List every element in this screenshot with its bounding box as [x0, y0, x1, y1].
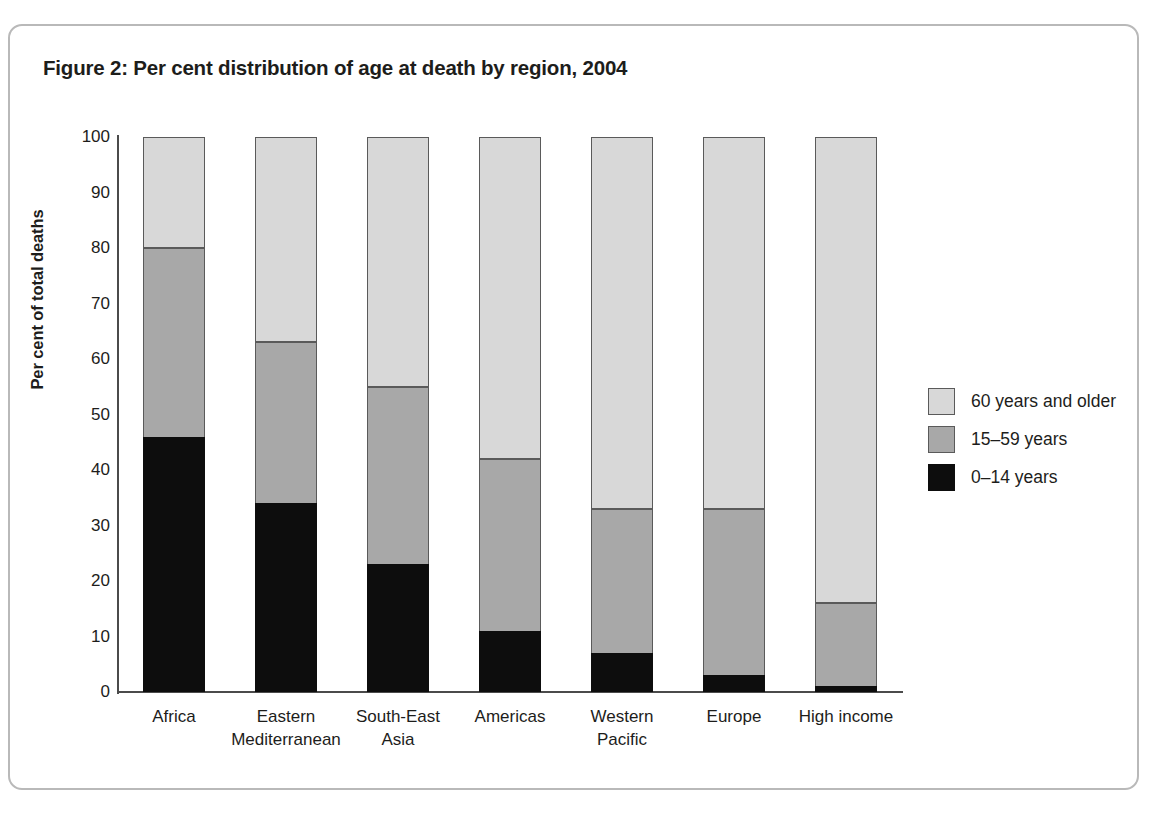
x-axis-tick-label: South-EastAsia — [342, 706, 454, 752]
legend-item: 15–59 years — [928, 420, 1128, 458]
y-axis-tick-70: 70 — [91, 294, 110, 314]
x-axis-tick-line: High income — [790, 706, 902, 729]
y-axis-tick-90: 90 — [91, 183, 110, 203]
bar-column — [255, 137, 317, 692]
x-axis-tick-label: Africa — [118, 706, 230, 729]
x-axis-tick-label: Europe — [678, 706, 790, 729]
bar-segment-15-59 — [255, 342, 317, 503]
bar-column — [367, 137, 429, 692]
legend-item: 60 years and older — [928, 382, 1128, 420]
x-axis-tick-label: WesternPacific — [566, 706, 678, 752]
x-axis-tick-line: Pacific — [566, 729, 678, 752]
bar-segment-15-59 — [479, 459, 541, 631]
bar-segment-15-59 — [143, 248, 205, 437]
bar-segment-60-and-older — [367, 137, 429, 387]
x-axis-tick-line: Africa — [118, 706, 230, 729]
bar-segment-60-and-older — [815, 137, 877, 603]
x-axis-tick-label: EasternMediterranean — [230, 706, 342, 752]
bar-segment-15-59 — [367, 387, 429, 565]
y-axis-tick-0: 0 — [101, 682, 110, 702]
bar-segment-15-59 — [703, 509, 765, 676]
bar-column — [815, 137, 877, 692]
x-axis-tick-line: Europe — [678, 706, 790, 729]
figure-title: Figure 2: Per cent distribution of age a… — [43, 56, 627, 80]
bar-segment-60-and-older — [143, 137, 205, 248]
bar-segment-0-14 — [479, 631, 541, 692]
bar-segment-15-59 — [815, 603, 877, 686]
legend-label: 15–59 years — [971, 429, 1067, 450]
x-axis-tick-line: Asia — [342, 729, 454, 752]
y-axis-tick-30: 30 — [91, 516, 110, 536]
y-axis-tick-labels: 0102030405060708090100 — [58, 0, 110, 815]
bar-segment-0-14 — [255, 503, 317, 692]
legend-swatch-icon — [928, 426, 955, 453]
x-axis-tick-line: Eastern — [230, 706, 342, 729]
bar-segment-60-and-older — [479, 137, 541, 459]
bar-segment-0-14 — [815, 686, 877, 692]
y-axis-label: Per cent of total deaths — [28, 170, 47, 430]
x-axis-tick-label: Americas — [454, 706, 566, 729]
x-axis-tick-line: South-East — [342, 706, 454, 729]
bar-column — [143, 137, 205, 692]
bar-column — [591, 137, 653, 692]
bar-segment-60-and-older — [703, 137, 765, 509]
x-axis-tick-line: Americas — [454, 706, 566, 729]
screenshot-root: Figure 2: Per cent distribution of age a… — [0, 0, 1153, 815]
legend-swatch-icon — [928, 464, 955, 491]
bar-segment-15-59 — [591, 509, 653, 653]
x-axis-tick-label: High income — [790, 706, 902, 729]
x-axis-tick-line: Western — [566, 706, 678, 729]
y-axis-tick-100: 100 — [82, 127, 110, 147]
legend-label: 60 years and older — [971, 391, 1116, 412]
y-axis-tick-40: 40 — [91, 460, 110, 480]
legend-item: 0–14 years — [928, 458, 1128, 496]
bar-segment-60-and-older — [591, 137, 653, 509]
legend-swatch-icon — [928, 388, 955, 415]
y-axis-tick-60: 60 — [91, 349, 110, 369]
legend-label: 0–14 years — [971, 467, 1058, 488]
y-axis-tick-80: 80 — [91, 238, 110, 258]
bar-segment-60-and-older — [255, 137, 317, 342]
y-axis-tick-50: 50 — [91, 405, 110, 425]
bar-column — [703, 137, 765, 692]
y-axis-tick-20: 20 — [91, 571, 110, 591]
x-axis-tick-line: Mediterranean — [230, 729, 342, 752]
y-axis-tick-10: 10 — [91, 627, 110, 647]
bar-column — [479, 137, 541, 692]
bar-segment-0-14 — [703, 675, 765, 692]
chart-legend: 60 years and older15–59 years0–14 years — [928, 382, 1128, 496]
bar-segment-0-14 — [591, 653, 653, 692]
bar-segment-0-14 — [367, 564, 429, 692]
bar-segment-0-14 — [143, 437, 205, 692]
